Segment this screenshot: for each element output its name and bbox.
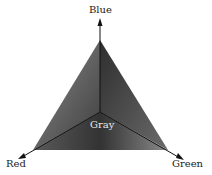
color-triangle-diagram — [0, 0, 212, 175]
green-axis-label: Green — [172, 158, 203, 169]
blue-arrowhead-icon — [98, 18, 103, 26]
center-gray-label: Gray — [90, 119, 114, 130]
red-axis-label: Red — [6, 158, 26, 169]
blue-axis-label: Blue — [89, 4, 112, 15]
